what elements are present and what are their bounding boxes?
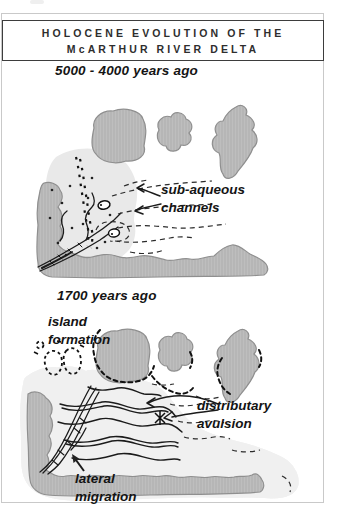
label-island-formation: island formation	[48, 313, 110, 349]
scan-smudge	[30, 0, 44, 4]
label-distributary-avulsion: distributary avulsion	[197, 397, 271, 433]
figure-title-line2: McARTHUR RIVER DELTA	[67, 41, 259, 57]
figure-title-line1: HOLOCENE EVOLUTION OF THE	[42, 25, 285, 41]
island-large	[92, 109, 146, 163]
label-lateral-migration: lateral migration	[75, 470, 137, 506]
island-middle	[157, 113, 191, 151]
panel1-heading: 5000 - 4000 years ago	[55, 63, 198, 78]
label-subaqueous-channels: sub-aqueous channels	[161, 181, 245, 217]
island-east	[214, 330, 259, 403]
island-middle	[158, 333, 192, 371]
figure-title-box: HOLOCENE EVOLUTION OF THE McARTHUR RIVER…	[2, 20, 324, 61]
subaqueous-arrow-upper	[138, 188, 160, 196]
subaqueous-arrows	[135, 184, 161, 214]
figure-holocene-delta-evolution: HOLOCENE EVOLUTION OF THE McARTHUR RIVER…	[0, 0, 338, 513]
island-east	[212, 106, 257, 179]
